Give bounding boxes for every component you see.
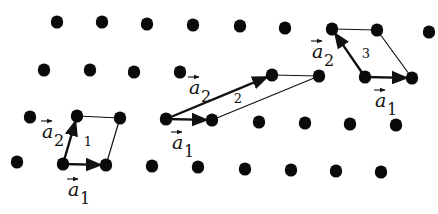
lattice-point <box>114 111 126 124</box>
label-a2: a2 <box>41 120 64 150</box>
lattice-point <box>24 110 36 123</box>
cell-edge <box>272 75 319 76</box>
svg-text:1: 1 <box>80 189 90 208</box>
cell-edge <box>377 30 412 78</box>
lattice-point <box>326 22 338 35</box>
lattice-point <box>51 15 63 28</box>
vector-labels: a1a2a1a2a1a2 <box>41 40 397 208</box>
lattice-point <box>313 69 325 82</box>
label-a2: a2 <box>188 76 211 106</box>
svg-text:a: a <box>68 178 79 200</box>
primitive-cells: 123 <box>63 29 412 165</box>
lattice-points <box>11 15 435 178</box>
lattice-point <box>371 23 383 36</box>
svg-text:a: a <box>172 131 183 153</box>
lattice-point <box>253 115 265 128</box>
vector-a2-arrow <box>166 77 267 119</box>
cell-edge <box>212 76 319 120</box>
cell-number-label: 2 <box>234 91 242 106</box>
lattice-point <box>38 63 50 76</box>
cell-edge <box>332 29 377 30</box>
cell-1: 1 <box>63 116 120 165</box>
lattice-point <box>160 112 172 125</box>
lattice-diagram: 123 a1a2a1a2a1a2 <box>0 0 438 214</box>
label-a1: a1 <box>67 178 90 208</box>
lattice-point <box>100 158 112 171</box>
cell-edge <box>106 118 120 165</box>
lattice-point <box>128 65 140 78</box>
label-a1: a1 <box>374 89 397 119</box>
lattice-point <box>279 21 291 34</box>
lattice-point <box>84 63 96 76</box>
cell-edge <box>77 116 120 118</box>
svg-text:2: 2 <box>54 131 64 150</box>
svg-text:2: 2 <box>201 87 211 106</box>
lattice-point <box>11 155 23 168</box>
svg-text:2: 2 <box>324 51 334 70</box>
cell-number-label: 3 <box>362 46 370 61</box>
lattice-point <box>174 65 186 78</box>
cell-number-label: 1 <box>84 134 92 149</box>
lattice-point <box>390 118 402 131</box>
label-a1: a1 <box>171 131 194 161</box>
lattice-point <box>96 15 108 28</box>
vector-a1-arrow <box>365 77 407 78</box>
svg-text:a: a <box>189 76 200 98</box>
lattice-point <box>330 164 342 177</box>
lattice-point <box>375 165 387 178</box>
label-a2: a2 <box>311 40 334 70</box>
lattice-point <box>239 162 251 175</box>
vector-a2-arrow <box>335 33 365 77</box>
lattice-point <box>299 116 311 129</box>
svg-text:1: 1 <box>387 100 397 119</box>
lattice-point <box>192 160 204 173</box>
lattice-point <box>406 71 418 84</box>
lattice-point <box>285 163 297 176</box>
lattice-point <box>344 117 356 130</box>
svg-text:a: a <box>375 89 386 111</box>
lattice-point <box>187 18 199 31</box>
lattice-point <box>206 113 218 126</box>
lattice-point <box>266 68 278 81</box>
svg-text:a: a <box>42 120 53 142</box>
lattice-point <box>57 157 69 170</box>
lattice-point <box>234 19 246 32</box>
svg-text:a: a <box>312 40 323 62</box>
lattice-point <box>359 70 371 83</box>
lattice-point <box>71 109 83 122</box>
cell-3: 3 <box>332 29 412 78</box>
lattice-point <box>141 17 153 30</box>
lattice-point <box>423 25 435 38</box>
vector-a2-arrow <box>63 121 76 164</box>
lattice-point <box>146 159 158 172</box>
svg-text:1: 1 <box>184 142 194 161</box>
